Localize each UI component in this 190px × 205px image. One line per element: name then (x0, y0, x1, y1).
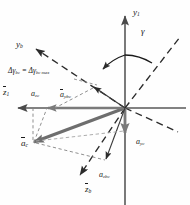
diagram-canvas (0, 0, 190, 205)
vector-label-ayc: ayc (136, 138, 144, 147)
vector-label-ac: ac (21, 139, 28, 149)
vector-aybc (94, 87, 125, 108)
axis-label-z1: z1 (3, 88, 9, 98)
vector-label-azbc: azbc (99, 171, 110, 180)
delta-gamma-annotation: Δγbc = Δγbc max (8, 67, 49, 76)
vector-ac (34, 108, 125, 142)
axis-label-zb: zb (85, 185, 91, 195)
gamma-angle-label: γ (141, 27, 145, 36)
vector-diagram-figure: y1 z1 yb zb γ ac azc ayc aybc azbc Δγbc … (0, 0, 190, 205)
gamma-angle-arc (103, 55, 152, 69)
gamma-reference-line (125, 37, 180, 132)
vector-label-aybc: aybc (60, 91, 71, 100)
axis-label-y1: y1 (133, 8, 140, 18)
axis-label-yb: yb (16, 40, 23, 50)
vector-label-azc: azc (31, 90, 39, 99)
